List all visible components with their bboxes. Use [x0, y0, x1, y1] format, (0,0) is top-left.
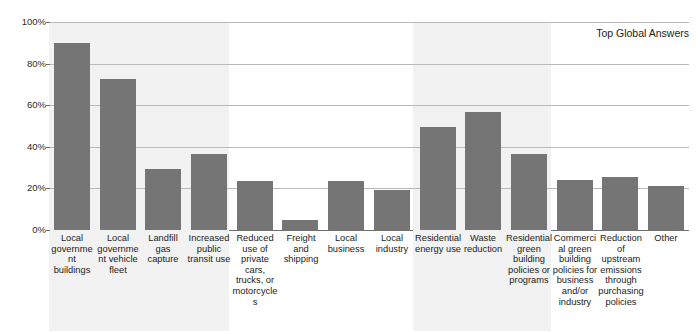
- y-axis-tick-label: 80%: [2, 59, 46, 69]
- x-axis-category-label: Reduced use of private cars, trucks, or …: [232, 233, 278, 307]
- y-axis-tick-label: 20%: [2, 184, 46, 194]
- bar[interactable]: [465, 112, 501, 230]
- chart-title: Top Global Answers: [596, 27, 689, 39]
- y-axis-tick-mark: [46, 230, 50, 231]
- bar[interactable]: [145, 169, 181, 230]
- gridline-80: [49, 64, 689, 65]
- x-axis-category-label: Increased public transit use: [186, 233, 232, 265]
- y-axis-tick-label: 100%: [2, 17, 46, 27]
- y-axis-tick-mark: [46, 64, 50, 65]
- y-axis-tick-label: 0%: [2, 225, 46, 235]
- gridline-100: [49, 22, 689, 23]
- x-axis-category-label: Local business: [323, 233, 369, 254]
- y-axis-tick-mark: [46, 147, 50, 148]
- bar-chart: 0%20%40%60%80%100% Local government buil…: [0, 0, 697, 334]
- bar[interactable]: [374, 190, 410, 230]
- x-axis-category-label: Freight and shipping: [278, 233, 324, 265]
- x-axis-category-label: Local government buildings: [49, 233, 95, 275]
- y-axis-tick-mark: [46, 22, 50, 23]
- x-axis-category-label: Waste reduction: [460, 233, 506, 254]
- x-axis-category-label: Local government vehicle fleet: [95, 233, 141, 275]
- bar[interactable]: [511, 154, 547, 230]
- bar[interactable]: [237, 181, 273, 230]
- plot-area: [49, 22, 689, 230]
- bar[interactable]: [54, 43, 90, 230]
- bar[interactable]: [420, 127, 456, 230]
- bar[interactable]: [100, 79, 136, 230]
- x-axis-category-label: Residential energy use: [415, 233, 461, 254]
- gridline-60: [49, 105, 689, 106]
- y-axis-tick-label: 40%: [2, 142, 46, 152]
- x-axis-category-label: Residential green building policies or p…: [506, 233, 552, 286]
- bar[interactable]: [328, 181, 364, 230]
- bar[interactable]: [557, 180, 593, 230]
- x-axis-category-label: Reduction of upstream emissions through …: [598, 233, 644, 307]
- x-axis-category-label: Commercial green building policies for b…: [552, 233, 598, 307]
- x-axis-category-label: Other: [643, 233, 689, 244]
- y-axis: 0%20%40%60%80%100%: [0, 22, 46, 230]
- gridline-40: [49, 147, 689, 148]
- bar[interactable]: [282, 220, 318, 230]
- y-axis-tick-mark: [46, 105, 50, 106]
- bar[interactable]: [648, 186, 684, 230]
- y-axis-tick-mark: [46, 188, 50, 189]
- bar[interactable]: [602, 177, 638, 230]
- x-axis-category-label: Landfill gas capture: [140, 233, 186, 265]
- y-axis-tick-label: 60%: [2, 100, 46, 110]
- x-axis-labels: Local government buildingsLocal governme…: [49, 233, 689, 333]
- x-axis-category-label: Local industry: [369, 233, 415, 254]
- bar[interactable]: [191, 154, 227, 230]
